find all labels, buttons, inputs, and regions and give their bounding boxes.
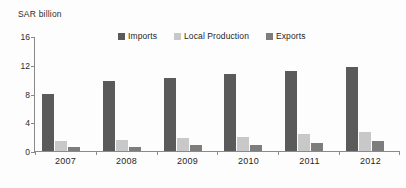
x-axis-label: 2008 bbox=[96, 156, 157, 166]
y-axis-title: SAR billion bbox=[18, 9, 62, 19]
x-tick-mark bbox=[399, 151, 400, 155]
bar bbox=[177, 138, 189, 151]
x-axis-label: 2007 bbox=[35, 156, 96, 166]
x-axis-label: 2011 bbox=[279, 156, 340, 166]
y-tick-label: 8 bbox=[25, 90, 30, 100]
bar bbox=[164, 78, 176, 151]
bar bbox=[311, 143, 323, 151]
bar-group bbox=[339, 37, 400, 151]
bar-group bbox=[217, 37, 278, 151]
x-axis-category-labels: 200720082009201020112012 bbox=[35, 156, 401, 166]
x-tick-mark bbox=[339, 151, 340, 155]
bar bbox=[116, 140, 128, 151]
bar-group bbox=[157, 37, 218, 151]
bar bbox=[346, 67, 358, 151]
y-tick-label: 4 bbox=[25, 118, 30, 128]
x-tick-mark bbox=[157, 151, 158, 155]
figure-caption bbox=[0, 180, 406, 188]
plot-area: 0481216 bbox=[34, 37, 400, 152]
bar bbox=[237, 137, 249, 151]
bar-chart: SAR billion Imports Local Production Exp… bbox=[0, 0, 406, 188]
y-tick-label: 0 bbox=[25, 147, 30, 157]
bar bbox=[285, 71, 297, 152]
bar-group bbox=[35, 37, 96, 151]
bar bbox=[103, 81, 115, 151]
x-axis-label: 2010 bbox=[218, 156, 279, 166]
bar bbox=[55, 141, 67, 151]
y-tick-label: 12 bbox=[21, 61, 30, 71]
bar bbox=[224, 74, 236, 151]
x-axis-label: 2009 bbox=[157, 156, 218, 166]
x-tick-mark bbox=[217, 151, 218, 155]
bar bbox=[190, 145, 202, 151]
bar-group bbox=[278, 37, 339, 151]
bar bbox=[372, 141, 384, 151]
x-tick-mark bbox=[96, 151, 97, 155]
x-axis-label: 2012 bbox=[340, 156, 401, 166]
bar bbox=[359, 132, 371, 151]
bar bbox=[42, 94, 54, 151]
bar bbox=[129, 147, 141, 151]
x-tick-mark bbox=[278, 151, 279, 155]
bar bbox=[298, 134, 310, 151]
bar bbox=[68, 147, 80, 151]
bar bbox=[250, 145, 262, 151]
bar-groups bbox=[35, 37, 400, 151]
bar-group bbox=[96, 37, 157, 151]
x-tick-mark bbox=[35, 151, 36, 155]
y-tick-label: 16 bbox=[21, 32, 30, 42]
